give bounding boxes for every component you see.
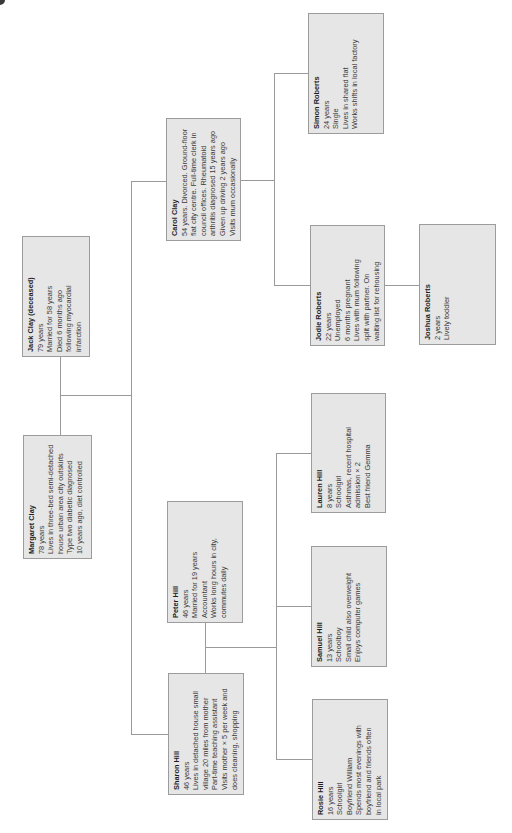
person-detail: admission × 2 [353, 398, 363, 508]
connector-hill-couple-out [205, 647, 276, 648]
connector-carol-out [240, 180, 274, 181]
person-detail: Works shifts in local factory [350, 18, 360, 129]
person-detail: house urban area city outskirts [56, 440, 66, 554]
person-detail: Schoolgirl [334, 398, 344, 508]
person-text: Joshua Roberts2 yearsLively toddler [420, 225, 495, 344]
corner-mark [0, 0, 5, 5]
person-text: Peter Hill46 yearsMarried for 19 yearsAc… [168, 502, 242, 622]
person-box-carol-clay: Carol Clay54 years. Divorced. Ground-flo… [166, 118, 241, 241]
person-detail: flat city centre. Full-time clerk in [189, 123, 199, 236]
person-detail: 24 years [322, 18, 332, 129]
person-name: Jodie Roberts [314, 230, 324, 341]
connector-to-samuel [276, 606, 311, 607]
person-detail: Schoolgirl [335, 704, 345, 815]
person-name: Carol Clay [170, 123, 180, 236]
person-detail: Single [331, 18, 341, 129]
person-detail: Best friend Gemma [363, 398, 373, 508]
person-detail: 13 years [325, 551, 335, 662]
connector-to-jodie [274, 285, 310, 286]
connector-clay-children-trunk [131, 181, 132, 735]
person-detail: arthritis diagnosed 15 years ago [208, 123, 218, 236]
person-detail: 46 years [181, 506, 191, 618]
person-box-peter-hill: Peter Hill46 yearsMarried for 19 yearsAc… [167, 501, 243, 623]
person-detail: 79 years [36, 241, 46, 352]
person-detail: Lives in shared flat [341, 18, 351, 129]
person-detail: 22 years [324, 230, 334, 341]
person-detail: Lives in detached house small [191, 678, 201, 790]
person-name: Sharon Hill [172, 678, 182, 790]
person-detail: commutes daily [219, 506, 229, 618]
person-detail: 8 years [325, 398, 335, 508]
person-detail: Enjoys computer games [353, 551, 363, 662]
person-detail: council offices. Rheumatoid [199, 123, 209, 236]
connector-to-lauren [276, 453, 311, 454]
connector-carol-children-trunk [274, 73, 275, 286]
person-detail: Part-time teaching assistant [210, 678, 220, 790]
person-text: Margaret Clay78 yearsLives in three-bed … [24, 436, 91, 558]
person-text: Simon Roberts24 yearsSingleLives in shar… [309, 14, 383, 133]
person-detail: Accountant [200, 506, 210, 618]
person-name: Rosie Hill [316, 704, 326, 815]
person-box-sharon-hill: Sharon Hill46 yearsLives in detached hou… [168, 673, 244, 795]
person-box-joshua-roberts: Joshua Roberts2 yearsLively toddler [419, 224, 496, 345]
person-detail: split with partner. On [362, 230, 372, 341]
person-detail: Small child also overweight [344, 551, 354, 662]
person-detail: waiting list for rehousing [372, 230, 382, 341]
person-detail: Type two diabetic diagnosed [65, 440, 75, 554]
connector-to-simon [274, 73, 308, 74]
person-text: Rosie Hill16 yearsSchoolgirlBoyfriend Wi… [313, 700, 387, 819]
person-box-simon-roberts: Simon Roberts24 yearsSingleLives in shar… [308, 13, 384, 134]
person-detail: 6 months pregnant [343, 230, 353, 341]
person-text: Jodie Roberts22 yearsUnemployed6 months … [311, 226, 384, 345]
person-name: Samuel Hill [315, 551, 325, 662]
person-text: Carol Clay54 years. Divorced. Ground-flo… [167, 119, 240, 240]
person-detail: 2 years [433, 229, 443, 340]
person-detail: 54 years. Divorced. Ground-floor [180, 123, 190, 236]
person-detail: 78 years [37, 440, 47, 554]
person-detail: 46 years [182, 678, 192, 790]
person-box-samuel-hill: Samuel Hill13 yearsSchoolboySmall child … [311, 546, 387, 667]
person-box-jodie-roberts: Jodie Roberts22 yearsUnemployed6 months … [310, 225, 385, 346]
person-detail: Unemployed [333, 230, 343, 341]
person-detail: Married for 19 years [190, 506, 200, 618]
person-detail: Visits mum occasionally [228, 123, 238, 236]
person-detail: does cleaning, shopping [230, 678, 240, 790]
person-detail: Asthmas, recent hospital [344, 398, 354, 508]
person-box-jack-clay: Jack Clay (deceased)79 yearsMarried for … [22, 236, 90, 357]
person-detail: Lively toddler [442, 229, 452, 340]
connector-clay-couple-to-trunk [60, 395, 131, 396]
person-text: Lauren Hill8 yearsSchoolgirlAsthmas, rec… [312, 394, 385, 512]
person-detail: Schoolboy [334, 551, 344, 662]
person-name: Lauren Hill [315, 398, 325, 508]
person-name: Peter Hill [171, 506, 181, 618]
person-text: Samuel Hill13 yearsSchoolboySmall child … [312, 547, 386, 666]
person-name: Joshua Roberts [423, 229, 433, 340]
person-detail: Lives with mum following [352, 230, 362, 341]
person-detail: 10 years ago, diet controlled [75, 440, 85, 554]
connector-to-carol [131, 181, 166, 182]
person-detail: Spends most evenings with [354, 704, 364, 815]
person-box-rosie-hill: Rosie Hill16 yearsSchoolgirlBoyfriend Wi… [312, 699, 388, 820]
person-detail: Works long hours in city, [209, 506, 219, 618]
person-text: Jack Clay (deceased)79 yearsMarried for … [23, 237, 89, 356]
person-detail: in local park [374, 704, 384, 815]
person-detail: Lives in three-bed semi-detached [46, 440, 56, 554]
person-name: Jack Clay (deceased) [26, 241, 36, 352]
connector-to-rosie [276, 759, 312, 760]
person-name: Simon Roberts [312, 18, 322, 129]
person-detail: 16 years [326, 704, 336, 815]
person-detail: following myocardial [64, 241, 74, 352]
person-detail: village 20 miles from mother [201, 678, 211, 790]
connector-jodie-joshua [384, 285, 419, 286]
person-detail: Visits mother × 5 per week and [220, 678, 230, 790]
person-detail: Boyfriend William [345, 704, 355, 815]
person-name: Margaret Clay [27, 440, 37, 554]
person-detail: Married for 58 years [45, 241, 55, 352]
person-box-margaret-clay: Margaret Clay78 yearsLives in three-bed … [23, 435, 92, 559]
person-detail: boyfriend and friends often [364, 704, 374, 815]
person-detail: infarction [74, 241, 84, 352]
connector-to-sharon [131, 734, 168, 735]
person-detail: Given up driving 2 years ago [218, 123, 228, 236]
person-detail: Died 6 months ago [55, 241, 65, 352]
person-text: Sharon Hill46 yearsLives in detached hou… [169, 674, 243, 794]
